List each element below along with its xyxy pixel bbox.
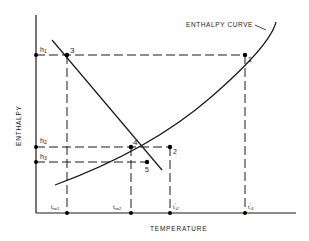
enthalpy-curve <box>55 22 276 185</box>
trw2-dot <box>129 211 133 215</box>
point-2 <box>168 145 172 149</box>
point-5-label: 5 <box>145 166 149 173</box>
point-2-label: 2 <box>173 148 177 155</box>
enthalpy-curve-label: ENTHALPY CURVE <box>186 21 253 28</box>
trw1-label: trw1 <box>51 204 60 211</box>
h2-dot <box>34 145 38 149</box>
point-1-label: 1 <box>248 56 252 63</box>
point-5 <box>145 160 149 164</box>
trw2-label: trw2 <box>113 204 122 211</box>
enthalpy-diagram: 1 2 3 4 5 h1 h2 h3 trw1 trw2 t'i2 t'i1 T… <box>0 0 309 241</box>
point-1 <box>243 53 247 57</box>
h3-dot <box>34 160 38 164</box>
trw1-dot <box>65 211 69 215</box>
point-3 <box>65 53 69 57</box>
point-4-label: 4 <box>133 138 138 147</box>
ti2-dot <box>168 211 172 215</box>
h1-dot <box>34 53 38 57</box>
point-3-label: 3 <box>70 46 75 55</box>
y-axis-title: ENTHALPY <box>15 105 22 146</box>
x-axis-title: TEMPERATURE <box>150 225 207 232</box>
h3-label: h3 <box>40 153 47 161</box>
h1-label: h1 <box>40 46 47 54</box>
ti2-label: t'i2 <box>173 202 180 211</box>
ti1-dot <box>243 211 247 215</box>
ti1-label: t'i1 <box>248 202 255 211</box>
operating-line <box>52 40 162 170</box>
h2-label: h2 <box>40 137 47 145</box>
curve-label-leader <box>255 25 266 30</box>
